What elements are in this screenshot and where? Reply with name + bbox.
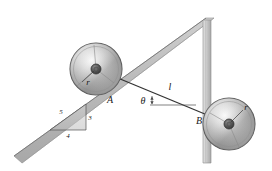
incline-slab — [14, 18, 214, 163]
slope-run-label: 4 — [66, 132, 70, 140]
pulley-bottom-radius-label: r — [244, 102, 248, 112]
cable-length-label: l — [169, 81, 172, 92]
angle-arrow-down — [150, 101, 153, 104]
figure-canvas: 5 3 4 θ l r — [0, 0, 272, 171]
pulley-top-axle — [94, 67, 98, 71]
slope-hyp-label: 5 — [59, 108, 63, 116]
angle-arrow-up — [150, 97, 153, 100]
incline-bottom-edge — [22, 18, 214, 163]
angle-marker: θ — [141, 95, 196, 106]
point-a-label: A — [106, 94, 114, 105]
pulley-top-radius-label: r — [86, 77, 90, 87]
pulley-top: r — [70, 43, 122, 95]
pulley-bottom-axle — [227, 122, 231, 126]
slope-rise-label: 3 — [87, 114, 92, 122]
pulley-bottom: r — [203, 98, 255, 150]
inclined-plane — [14, 18, 214, 163]
angle-label: θ — [141, 95, 146, 106]
mechanics-figure: 5 3 4 θ l r — [0, 0, 272, 171]
point-b-label: B — [196, 115, 202, 126]
